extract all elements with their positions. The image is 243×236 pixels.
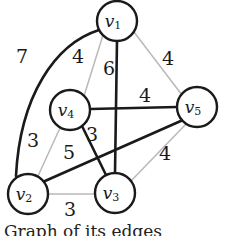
edge-weight-v2-v3: 3 xyxy=(64,198,76,220)
edge-v4-v2 xyxy=(38,128,60,176)
edge-weight-v1-v3: 6 xyxy=(103,57,115,79)
edge-weight-v4-v5: 4 xyxy=(139,84,151,106)
graph-diagram-canvas: v1 v4 v5 v2 v3 7 4 6 4 4 xyxy=(0,0,243,236)
graph-figure: v1 v4 v5 v2 v3 7 4 6 4 4 xyxy=(0,0,243,236)
edge-weight-v4-v2: 3 xyxy=(27,129,39,151)
node-v4[interactable]: v4 xyxy=(50,90,90,130)
edge-weight-v1-v2: 7 xyxy=(16,45,28,67)
node-v2[interactable]: v2 xyxy=(8,174,48,214)
edge-weight-v1-v4: 4 xyxy=(72,45,84,67)
edge-weight-v3-v5: 4 xyxy=(159,142,171,164)
edge-weight-v2-v5: 5 xyxy=(63,141,75,163)
edge-weight-v4-v3: 3 xyxy=(86,123,98,145)
edge-weight-v1-v5: 4 xyxy=(162,47,174,69)
edge-layer-bold xyxy=(16,30,183,181)
node-v5[interactable]: v5 xyxy=(177,87,217,127)
edge-v1-v3 xyxy=(115,41,117,173)
edge-v4-v5 xyxy=(90,107,177,109)
edge-v1-v4 xyxy=(84,35,103,96)
figure-caption: Graph of its edges xyxy=(4,222,162,236)
node-v1[interactable]: v1 xyxy=(97,1,137,41)
node-v3[interactable]: v3 xyxy=(95,173,135,213)
